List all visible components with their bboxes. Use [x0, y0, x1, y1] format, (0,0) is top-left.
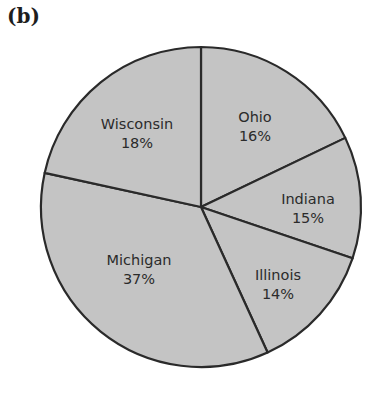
slice-percent-label: 18%	[121, 135, 153, 151]
slice-percent-label: 37%	[123, 271, 155, 287]
pie-slices	[41, 47, 361, 367]
slice-percent-label: 14%	[262, 286, 294, 302]
slice-percent-label: 16%	[239, 128, 271, 144]
slice-name-label: Indiana	[281, 191, 335, 207]
pie-chart: Ohio16%Indiana15%Illinois14%Michigan37%W…	[0, 0, 385, 411]
slice-name-label: Wisconsin	[101, 116, 173, 132]
slice-name-label: Michigan	[106, 252, 171, 268]
slice-name-label: Ohio	[238, 109, 272, 125]
slice-name-label: Illinois	[255, 267, 301, 283]
slice-percent-label: 15%	[292, 210, 324, 226]
